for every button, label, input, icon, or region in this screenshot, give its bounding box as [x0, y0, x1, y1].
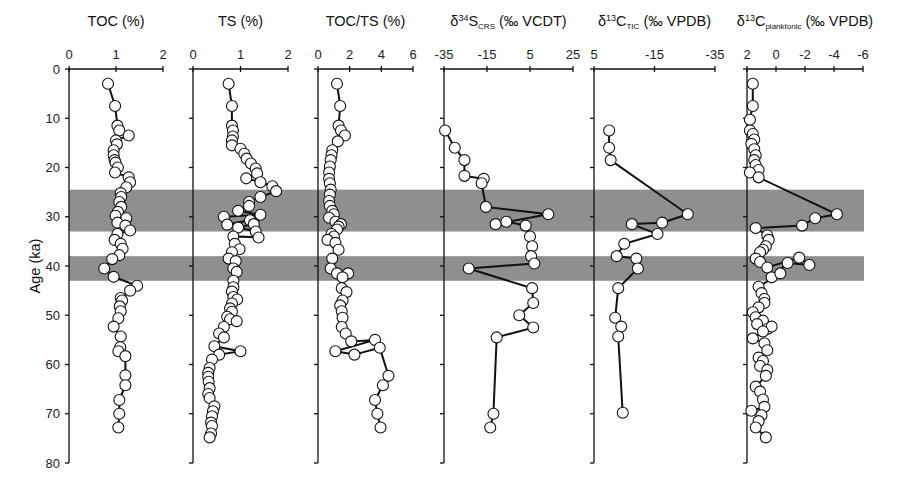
x-tick-label: -4 — [828, 47, 840, 62]
data-point — [108, 271, 119, 282]
data-point — [244, 200, 255, 211]
data-point — [253, 232, 264, 243]
data-point — [241, 173, 252, 184]
data-point — [746, 405, 757, 416]
chart-panels: 012TOC (%)012TS (%)0246TOC/TS (%)-35-155… — [65, 13, 873, 463]
data-point — [463, 263, 474, 274]
data-point — [349, 349, 360, 360]
y-tick-label: 20 — [46, 160, 60, 175]
x-tick-label: 1 — [112, 47, 119, 62]
x-tick-label: 4 — [378, 47, 385, 62]
panel-title: δ34SCRS (‰ VCDT) — [450, 13, 566, 31]
x-tick-label: -6 — [857, 47, 869, 62]
data-point — [514, 310, 525, 321]
panel-ts: 012TS (%) — [189, 13, 292, 463]
data-point — [605, 155, 616, 166]
data-point — [543, 209, 554, 220]
panel-toc-ts: 0246TOC/TS (%) — [314, 13, 417, 463]
y-tick-label: 60 — [46, 357, 60, 372]
data-point — [255, 209, 266, 220]
data-point — [831, 209, 842, 220]
data-point — [527, 241, 538, 252]
data-point — [631, 253, 642, 264]
data-point — [377, 380, 388, 391]
data-point — [750, 223, 761, 234]
x-tick-label: 0 — [189, 47, 196, 62]
data-point — [107, 254, 118, 265]
data-point — [529, 258, 540, 269]
x-tick-label: -2 — [799, 47, 811, 62]
data-point — [747, 333, 758, 344]
data-point — [617, 407, 628, 418]
data-point — [616, 321, 627, 332]
data-point — [374, 342, 385, 353]
y-tick-label: 30 — [46, 209, 60, 224]
y-tick-label: 10 — [46, 111, 60, 126]
panel-d13c-planktonic: 20-2-4-6δ13Cplanktonic (‰ VPDB) — [737, 13, 873, 463]
data-point — [459, 155, 470, 166]
x-tick-label: 1 — [237, 47, 244, 62]
panel-title: TOC (%) — [88, 13, 145, 29]
panel-title: TOC/TS (%) — [326, 13, 405, 29]
data-point — [611, 251, 622, 262]
data-point — [747, 78, 758, 89]
data-point — [797, 220, 808, 231]
data-point — [652, 228, 663, 239]
data-point — [110, 167, 121, 178]
data-point — [753, 172, 764, 183]
panel-d13c-tic: 5-15-35δ13CTIC (‰ VPDB) — [590, 13, 724, 463]
data-point — [804, 260, 815, 271]
data-point — [346, 336, 357, 347]
x-tick-label: 2 — [346, 47, 353, 62]
data-point — [682, 209, 693, 220]
data-point — [528, 322, 539, 333]
data-point — [657, 217, 668, 228]
data-point — [527, 283, 538, 294]
data-point — [332, 78, 343, 89]
data-point — [480, 201, 491, 212]
data-point — [335, 100, 346, 111]
data-point — [271, 186, 282, 197]
data-point — [485, 422, 496, 433]
x-tick-label: 5 — [590, 47, 597, 62]
data-point — [218, 332, 229, 343]
y-tick-label: 0 — [53, 62, 60, 77]
data-point — [490, 219, 501, 230]
data-point — [125, 285, 136, 296]
x-tick-label: 6 — [409, 47, 416, 62]
data-point — [604, 142, 615, 153]
data-point — [613, 283, 624, 294]
data-point — [449, 142, 460, 153]
data-point — [123, 130, 134, 141]
x-tick-label: 25 — [566, 47, 580, 62]
data-point — [255, 192, 266, 203]
data-point — [528, 297, 539, 308]
panel-title: TS (%) — [218, 13, 263, 29]
x-tick-label: 2 — [743, 47, 750, 62]
data-point — [760, 370, 771, 381]
data-point — [520, 220, 531, 231]
data-point — [327, 253, 338, 264]
data-point — [235, 346, 246, 357]
data-point — [794, 252, 805, 263]
data-point — [810, 213, 821, 224]
data-point — [114, 408, 125, 419]
data-point — [226, 100, 237, 111]
x-tick-label: 2 — [284, 47, 291, 62]
data-point — [375, 422, 386, 433]
x-tick-label: 0 — [772, 47, 779, 62]
x-tick-label: 5 — [526, 47, 533, 62]
data-point — [223, 78, 234, 89]
x-tick-label: 0 — [314, 47, 321, 62]
data-point — [501, 216, 512, 227]
data-point — [370, 394, 381, 405]
data-point — [108, 321, 119, 332]
data-point — [744, 114, 755, 125]
data-point — [233, 205, 244, 216]
data-point — [604, 125, 615, 136]
x-tick-label: -35 — [435, 47, 454, 62]
data-point — [775, 268, 786, 279]
age-axis: 01020304050607080 — [46, 62, 60, 471]
panel-title: δ13CTIC (‰ VPDB) — [598, 13, 711, 31]
data-point — [372, 408, 383, 419]
